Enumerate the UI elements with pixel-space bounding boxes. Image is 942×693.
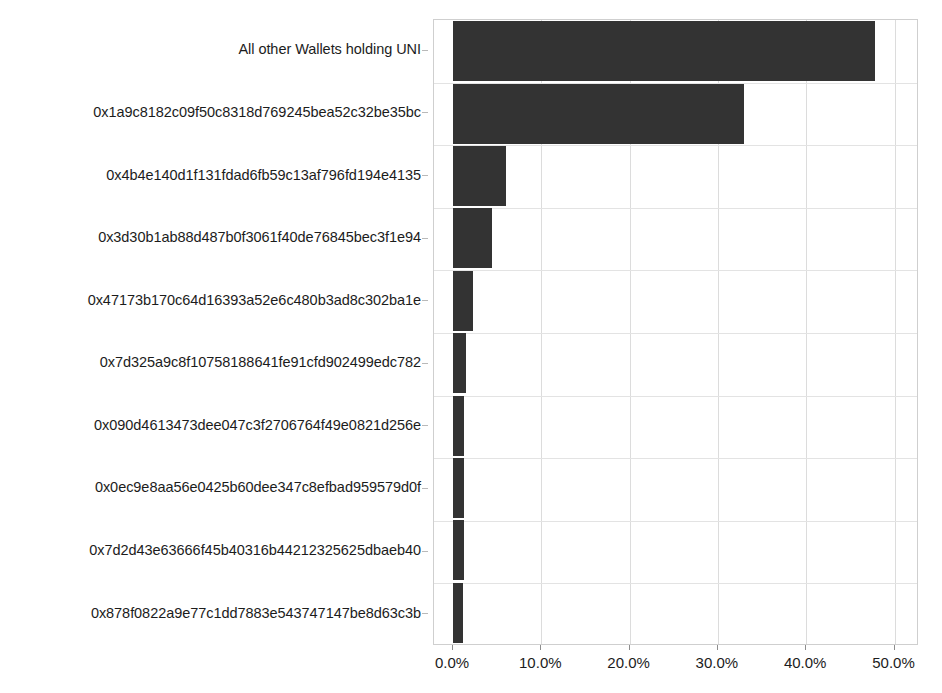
- bar[interactable]: [453, 333, 466, 393]
- y-axis-tick-label: 0x090d4613473dee047c3f2706764f49e0821d25…: [0, 395, 428, 458]
- bar-row: [434, 207, 917, 269]
- bar-row: [434, 332, 917, 394]
- category-label: 0x1a9c8182c09f50c8318d769245bea52c32be35…: [93, 105, 421, 121]
- bar[interactable]: [453, 458, 464, 518]
- y-axis-tick-mark: [422, 238, 428, 239]
- bar-row: [434, 270, 917, 332]
- bar[interactable]: [453, 21, 875, 81]
- y-axis-category-labels: All other Wallets holding UNI0x1a9c8182c…: [0, 19, 428, 645]
- category-label: 0x0ec9e8aa56e0425b60dee347c8efbad959579d…: [95, 480, 421, 496]
- bar[interactable]: [453, 520, 464, 580]
- y-axis-tick-label: 0x7d2d43e63666f45b40316b44212325625dbaeb…: [0, 520, 428, 583]
- category-label: 0x878f0822a9e77c1dd7883e543747147be8d63c…: [91, 606, 421, 622]
- y-axis-tick-mark: [422, 175, 428, 176]
- category-label: 0x7d325a9c8f10758188641fe91cfd902499edc7…: [100, 355, 421, 371]
- category-label: 0x3d30b1ab88d487b0f3061f40de76845bec3f1e…: [98, 230, 421, 246]
- x-axis-tick-mark: [894, 645, 895, 650]
- y-axis-tick-label: 0x878f0822a9e77c1dd7883e543747147be8d63c…: [0, 582, 428, 645]
- x-axis-tick-label: 20.0%: [607, 654, 650, 671]
- bar-row: [434, 457, 917, 519]
- bar-row: [434, 82, 917, 144]
- y-axis-tick-label: 0x4b4e140d1f131fdad6fb59c13af796fd194e41…: [0, 144, 428, 207]
- bar-chart: All other Wallets holding UNI0x1a9c8182c…: [0, 0, 942, 693]
- bar[interactable]: [453, 208, 492, 268]
- y-axis-tick-label: 0x1a9c8182c09f50c8318d769245bea52c32be35…: [0, 82, 428, 145]
- category-label: 0x4b4e140d1f131fdad6fb59c13af796fd194e41…: [106, 168, 421, 184]
- x-axis-tick-label: 10.0%: [519, 654, 562, 671]
- x-axis: 0.0%10.0%20.0%30.0%40.0%50.0%: [433, 645, 918, 693]
- y-axis-tick-label: 0x47173b170c64d16393a52e6c480b3ad8c302ba…: [0, 269, 428, 332]
- bar[interactable]: [453, 396, 464, 456]
- x-axis-tick-mark: [805, 645, 806, 650]
- x-axis-tick-label: 30.0%: [696, 654, 739, 671]
- plot-area: [433, 19, 918, 645]
- x-axis-tick-mark: [452, 645, 453, 650]
- category-label: 0x090d4613473dee047c3f2706764f49e0821d25…: [94, 418, 421, 434]
- bar-row: [434, 145, 917, 207]
- y-axis-tick-mark: [422, 112, 428, 113]
- bar-row: [434, 519, 917, 581]
- category-label: All other Wallets holding UNI: [238, 42, 421, 58]
- bar[interactable]: [453, 146, 506, 206]
- x-axis-tick-mark: [717, 645, 718, 650]
- x-axis-tick-label: 40.0%: [784, 654, 827, 671]
- y-axis-tick-label: 0x0ec9e8aa56e0425b60dee347c8efbad959579d…: [0, 457, 428, 520]
- bar[interactable]: [453, 583, 463, 643]
- bar-row: [434, 582, 917, 644]
- x-axis-tick-label: 0.0%: [435, 654, 469, 671]
- bar-series: [434, 20, 917, 644]
- y-axis-tick-mark: [422, 300, 428, 301]
- category-label: 0x47173b170c64d16393a52e6c480b3ad8c302ba…: [88, 293, 421, 309]
- y-axis-tick-mark: [422, 425, 428, 426]
- bar[interactable]: [453, 271, 473, 331]
- x-axis-tick-mark: [540, 645, 541, 650]
- y-axis-tick-label: 0x3d30b1ab88d487b0f3061f40de76845bec3f1e…: [0, 207, 428, 270]
- y-axis-tick-mark: [422, 50, 428, 51]
- x-axis-tick-mark: [629, 645, 630, 650]
- y-axis-tick-mark: [422, 363, 428, 364]
- y-axis-tick-mark: [422, 613, 428, 614]
- bar-row: [434, 20, 917, 82]
- y-axis-tick-label: 0x7d325a9c8f10758188641fe91cfd902499edc7…: [0, 332, 428, 395]
- bar[interactable]: [453, 84, 744, 144]
- y-axis-tick-label: All other Wallets holding UNI: [0, 19, 428, 82]
- x-axis-tick-label: 50.0%: [872, 654, 915, 671]
- y-axis-tick-mark: [422, 551, 428, 552]
- y-axis-tick-mark: [422, 488, 428, 489]
- bar-row: [434, 394, 917, 456]
- category-label: 0x7d2d43e63666f45b40316b44212325625dbaeb…: [89, 543, 421, 559]
